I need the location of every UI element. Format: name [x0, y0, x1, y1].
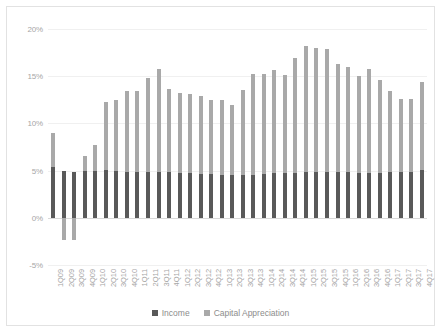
- bar-segment-income[interactable]: [325, 172, 329, 217]
- bar-slot[interactable]: [322, 29, 333, 265]
- bar-slot[interactable]: [364, 29, 375, 265]
- bar-segment-capital-appreciation[interactable]: [336, 64, 340, 173]
- bar-slot[interactable]: [353, 29, 364, 265]
- bar-segment-income[interactable]: [83, 171, 87, 218]
- bar-segment-income[interactable]: [283, 173, 287, 217]
- bar-slot[interactable]: [195, 29, 206, 265]
- bar-slot[interactable]: [269, 29, 280, 265]
- bar-segment-capital-appreciation[interactable]: [230, 105, 234, 175]
- bar-segment-capital-appreciation[interactable]: [125, 91, 129, 171]
- bar-slot[interactable]: [406, 29, 417, 265]
- bar-segment-capital-appreciation[interactable]: [167, 89, 171, 172]
- bar-segment-capital-appreciation[interactable]: [188, 94, 192, 173]
- bar-segment-capital-appreciation[interactable]: [251, 74, 255, 175]
- bar-segment-income[interactable]: [125, 172, 129, 218]
- bar-segment-capital-appreciation[interactable]: [62, 218, 66, 241]
- bar-segment-income[interactable]: [378, 173, 382, 217]
- bar-segment-income[interactable]: [346, 172, 350, 217]
- bar-segment-income[interactable]: [199, 174, 203, 217]
- bar-segment-income[interactable]: [241, 175, 245, 217]
- bar-slot[interactable]: [395, 29, 406, 265]
- bar-slot[interactable]: [111, 29, 122, 265]
- bar-segment-income[interactable]: [51, 167, 55, 218]
- bar-slot[interactable]: [143, 29, 154, 265]
- bar-slot[interactable]: [90, 29, 101, 265]
- bar-slot[interactable]: [301, 29, 312, 265]
- bar-slot[interactable]: [290, 29, 301, 265]
- bar-segment-income[interactable]: [409, 172, 413, 218]
- bar-segment-income[interactable]: [293, 173, 297, 217]
- bar-slot[interactable]: [69, 29, 80, 265]
- bar-slot[interactable]: [206, 29, 217, 265]
- bar-slot[interactable]: [343, 29, 354, 265]
- bar-segment-capital-appreciation[interactable]: [272, 70, 276, 174]
- bar-segment-capital-appreciation[interactable]: [83, 156, 87, 170]
- bar-slot[interactable]: [164, 29, 175, 265]
- bar-slot[interactable]: [132, 29, 143, 265]
- bar-segment-capital-appreciation[interactable]: [304, 46, 308, 172]
- bar-segment-capital-appreciation[interactable]: [367, 69, 371, 174]
- bar-segment-income[interactable]: [336, 172, 340, 217]
- bar-segment-income[interactable]: [62, 171, 66, 218]
- bar-slot[interactable]: [259, 29, 270, 265]
- bar-segment-income[interactable]: [178, 173, 182, 217]
- bar-slot[interactable]: [385, 29, 396, 265]
- bar-segment-income[interactable]: [114, 171, 118, 218]
- bar-segment-capital-appreciation[interactable]: [283, 75, 287, 173]
- bar-segment-income[interactable]: [93, 171, 97, 218]
- bar-slot[interactable]: [416, 29, 427, 265]
- bar-segment-capital-appreciation[interactable]: [220, 100, 224, 176]
- bar-segment-income[interactable]: [251, 175, 255, 217]
- bar-slot[interactable]: [374, 29, 385, 265]
- bar-segment-capital-appreciation[interactable]: [293, 58, 297, 173]
- bar-segment-income[interactable]: [230, 175, 234, 217]
- bar-segment-income[interactable]: [157, 172, 161, 217]
- bar-segment-income[interactable]: [314, 172, 318, 217]
- bar-segment-capital-appreciation[interactable]: [178, 93, 182, 173]
- bar-segment-capital-appreciation[interactable]: [157, 69, 161, 173]
- bar-segment-capital-appreciation[interactable]: [72, 218, 76, 241]
- bar-segment-capital-appreciation[interactable]: [104, 102, 108, 170]
- bar-segment-capital-appreciation[interactable]: [93, 145, 97, 170]
- bar-slot[interactable]: [174, 29, 185, 265]
- bar-segment-income[interactable]: [146, 172, 150, 217]
- bar-segment-income[interactable]: [209, 174, 213, 217]
- bar-segment-capital-appreciation[interactable]: [388, 91, 392, 172]
- bar-segment-income[interactable]: [367, 173, 371, 217]
- bar-segment-capital-appreciation[interactable]: [146, 78, 150, 172]
- bar-slot[interactable]: [185, 29, 196, 265]
- bar-segment-income[interactable]: [135, 172, 139, 218]
- bar-segment-capital-appreciation[interactable]: [209, 100, 213, 175]
- bar-slot[interactable]: [248, 29, 259, 265]
- bar-slot[interactable]: [48, 29, 59, 265]
- bar-segment-capital-appreciation[interactable]: [357, 76, 361, 173]
- bar-slot[interactable]: [101, 29, 112, 265]
- bar-segment-capital-appreciation[interactable]: [135, 91, 139, 171]
- legend-item[interactable]: Capital Appreciation: [204, 308, 290, 318]
- bar-segment-capital-appreciation[interactable]: [241, 90, 245, 175]
- bar-segment-income[interactable]: [72, 172, 76, 218]
- bar-segment-capital-appreciation[interactable]: [314, 48, 318, 173]
- bar-segment-income[interactable]: [262, 174, 266, 217]
- bar-segment-capital-appreciation[interactable]: [420, 82, 424, 170]
- bar-segment-capital-appreciation[interactable]: [378, 80, 382, 173]
- bar-slot[interactable]: [216, 29, 227, 265]
- bar-slot[interactable]: [227, 29, 238, 265]
- bar-slot[interactable]: [280, 29, 291, 265]
- bar-segment-income[interactable]: [357, 173, 361, 217]
- bar-segment-capital-appreciation[interactable]: [262, 74, 266, 174]
- bar-segment-capital-appreciation[interactable]: [325, 49, 329, 173]
- bar-segment-income[interactable]: [304, 172, 308, 217]
- bar-slot[interactable]: [153, 29, 164, 265]
- bar-segment-capital-appreciation[interactable]: [346, 67, 350, 173]
- legend-item[interactable]: Income: [152, 308, 190, 318]
- bar-segment-capital-appreciation[interactable]: [51, 133, 55, 167]
- bar-segment-income[interactable]: [388, 172, 392, 217]
- bar-segment-capital-appreciation[interactable]: [199, 96, 203, 174]
- bar-slot[interactable]: [59, 29, 70, 265]
- bar-slot[interactable]: [122, 29, 133, 265]
- bar-segment-capital-appreciation[interactable]: [399, 99, 403, 173]
- bar-slot[interactable]: [332, 29, 343, 265]
- bar-slot[interactable]: [311, 29, 322, 265]
- bar-segment-income[interactable]: [104, 170, 108, 218]
